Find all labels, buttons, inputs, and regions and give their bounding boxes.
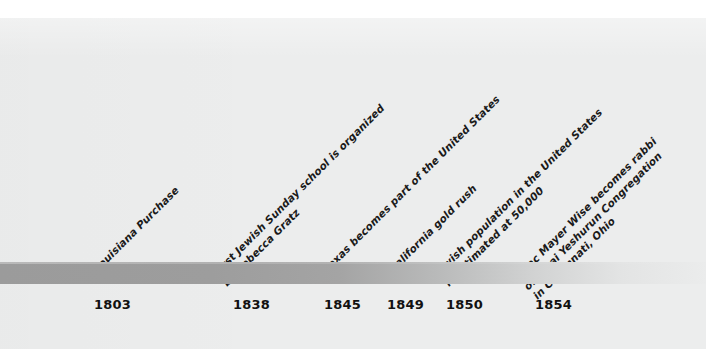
year-label-1803: 1803: [94, 297, 131, 312]
year-label-1838: 1838: [233, 297, 270, 312]
year-label-1849: 1849: [387, 297, 424, 312]
timeline-figure: Louisiana Purchase First Jewish Sunday s…: [0, 0, 706, 349]
event-label-line: First Jewish Sunday school is organized: [210, 102, 388, 280]
page-top-margin: [0, 0, 706, 18]
year-label-1845: 1845: [324, 297, 361, 312]
year-label-1854: 1854: [535, 297, 572, 312]
timeline-axis-bar: [0, 262, 706, 284]
event-label-1838: First Jewish Sunday school is organized …: [210, 102, 397, 289]
year-label-1850: 1850: [446, 297, 483, 312]
